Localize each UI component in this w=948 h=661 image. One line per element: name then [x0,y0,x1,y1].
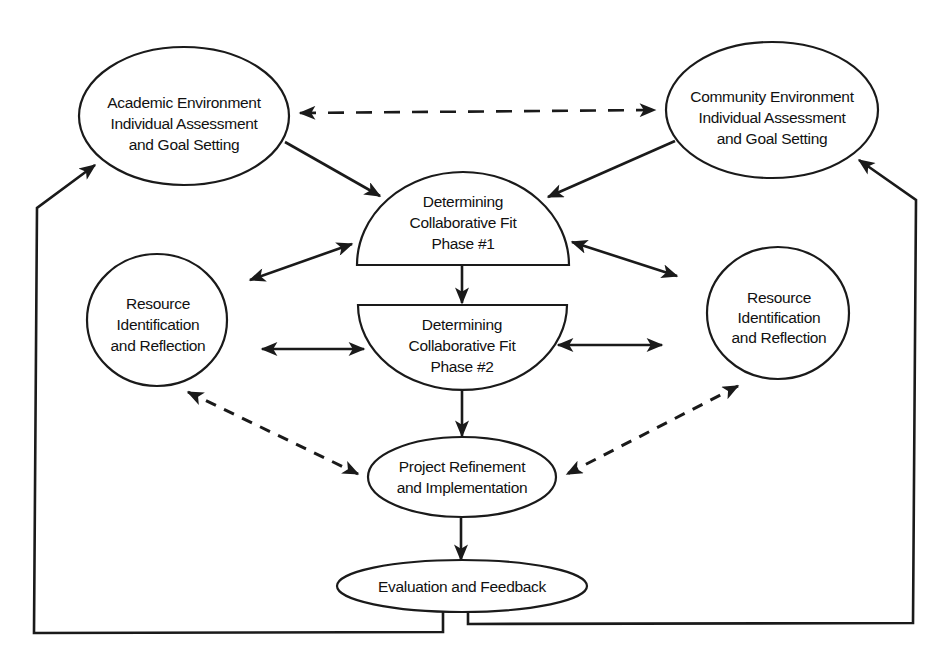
node-collaborative-fit-phase-1: Determining Collaborative Fit Phase #1 [357,172,569,265]
node-resource-identification-left: Resource Identification and Reflection [87,254,227,386]
node-phase2-line-2: Collaborative Fit [409,337,517,354]
node-evaluation-feedback: Evaluation and Feedback [337,560,587,612]
edge-resource-right-project [567,386,738,474]
node-academic-line-2: Individual Assessment [110,115,258,132]
edge-academic-phase1 [285,142,380,196]
node-resource-identification-right: Resource Identification and Reflection [707,247,849,379]
node-community-line-1: Community Environment [690,88,854,105]
node-community-environment: Community Environment Individual Assessm… [666,42,878,178]
collaboration-process-diagram: Academic Environment Individual Assessme… [0,0,948,661]
node-academic-line-1: Academic Environment [107,94,261,111]
node-academic-environment: Academic Environment Individual Assessme… [79,47,289,185]
node-collaborative-fit-phase-2: Determining Collaborative Fit Phase #2 [358,305,567,390]
edge-resource-right-phase1 [572,242,677,276]
node-project-refinement: Project Refinement and Implementation [368,437,556,517]
node-resource-left-line-1: Resource [126,295,190,312]
node-evaluation-line-1: Evaluation and Feedback [378,578,547,595]
node-phase1-line-3: Phase #1 [431,235,494,252]
node-resource-right-line-3: and Reflection [732,329,827,346]
edge-academic-community [300,110,655,113]
node-project-line-1: Project Refinement [399,458,526,475]
node-resource-left-line-2: Identification [117,316,200,333]
node-resource-right-line-2: Identification [738,309,821,326]
edge-community-phase1 [548,141,675,197]
node-phase2-line-3: Phase #2 [430,358,493,375]
edge-resource-left-project [188,392,358,474]
node-community-line-2: Individual Assessment [698,109,846,126]
node-resource-left-line-3: and Reflection [111,337,206,354]
edge-resource-left-phase1 [250,244,352,280]
node-phase1-line-1: Determining [423,193,503,210]
node-phase1-line-2: Collaborative Fit [410,214,518,231]
node-resource-right-line-1: Resource [747,289,811,306]
node-community-line-3: and Goal Setting [717,130,828,147]
node-phase2-line-1: Determining [422,316,502,333]
node-academic-line-3: and Goal Setting [129,136,240,153]
node-project-line-2: and Implementation [397,479,528,496]
